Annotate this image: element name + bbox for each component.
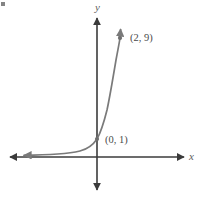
graph-canvas (0, 0, 201, 198)
point-label-2-9: (2, 9) (130, 33, 153, 44)
point-label-0-1: (0, 1) (105, 135, 128, 146)
y-axis-label: y (95, 2, 100, 13)
point-marker-2-9 (118, 36, 122, 40)
point-marker-0-1 (95, 137, 99, 141)
exponential-function-figure: y x (2, 9) (0, 1) (0, 0, 201, 198)
x-axis-label: x (189, 151, 194, 162)
